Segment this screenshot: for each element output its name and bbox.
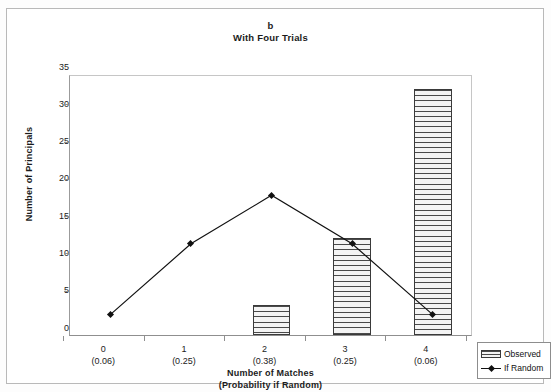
x-category-label: 1(0.25) bbox=[144, 343, 224, 367]
chart-subtitle: With Four Trials bbox=[69, 32, 472, 44]
y-tick-label: 35 bbox=[41, 62, 69, 73]
x-tick-mark bbox=[63, 336, 64, 341]
legend-label-if-random: If Random bbox=[504, 363, 543, 373]
x-category-label: 2(0.38) bbox=[225, 343, 305, 367]
legend-line-swatch-icon bbox=[481, 364, 501, 372]
x-category-label: 4(0.06) bbox=[386, 343, 466, 367]
x-category-probability: (0.25) bbox=[144, 355, 224, 367]
x-category-probability: (0.06) bbox=[63, 355, 143, 367]
plot-inner bbox=[70, 76, 471, 335]
legend-bar-swatch-icon bbox=[481, 350, 501, 358]
x-category-label: 0(0.06) bbox=[63, 343, 143, 367]
x-axis-title-line1: Number of Matches bbox=[227, 368, 314, 378]
x-axis-title: Number of Matches (Probability if Random… bbox=[69, 367, 472, 391]
y-tick-label: 0 bbox=[41, 323, 69, 334]
figure-frame: b With Four Trials Number of Principals … bbox=[6, 8, 544, 384]
x-axis-title-line2: (Probability if Random) bbox=[69, 379, 472, 391]
line-series-if-random bbox=[70, 76, 473, 337]
x-category-probability: (0.25) bbox=[305, 355, 385, 367]
line-path bbox=[110, 195, 432, 314]
x-category-probability: (0.38) bbox=[225, 355, 305, 367]
x-category-match: 4 bbox=[423, 344, 428, 354]
chart-legend: Observed If Random bbox=[477, 342, 551, 379]
x-category-probability: (0.06) bbox=[386, 355, 466, 367]
plot-area bbox=[69, 75, 472, 336]
y-axis-title: Number of Principals bbox=[24, 94, 34, 254]
legend-label-observed: Observed bbox=[504, 349, 541, 359]
x-category-match: 1 bbox=[181, 344, 186, 354]
x-category-match: 0 bbox=[101, 344, 106, 354]
legend-item-if-random: If Random bbox=[481, 361, 547, 375]
x-category-match: 3 bbox=[343, 344, 348, 354]
x-category-label: 3(0.25) bbox=[305, 343, 385, 367]
legend-item-observed: Observed bbox=[481, 347, 547, 361]
legend-diamond-marker-icon bbox=[488, 364, 495, 371]
figure-container: b With Four Trials Number of Principals … bbox=[0, 0, 551, 392]
chart-title: b With Four Trials bbox=[69, 20, 472, 44]
chart-title-panel-letter: b bbox=[267, 20, 273, 31]
x-category-match: 2 bbox=[262, 344, 267, 354]
